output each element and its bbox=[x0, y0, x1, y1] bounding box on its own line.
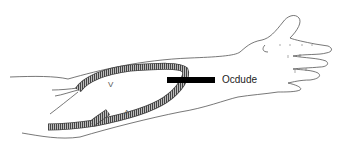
arm-outline bbox=[10, 15, 332, 138]
flow-marker-lower: Λ bbox=[124, 108, 129, 117]
graft-loop bbox=[48, 66, 186, 127]
occlude-label: Ocdude bbox=[222, 74, 257, 85]
arm-diagram bbox=[0, 0, 340, 149]
occlusion-bar bbox=[167, 77, 215, 83]
flow-marker-upper: V bbox=[108, 80, 113, 89]
